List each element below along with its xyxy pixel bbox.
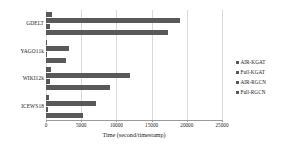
bar [46, 79, 50, 84]
bar-row [46, 52, 222, 57]
bar-group [46, 65, 222, 93]
x-axis-title: Time (second/timestamp) [46, 131, 222, 138]
bar-group [46, 10, 222, 38]
y-axis-label: YAGO11k [0, 48, 44, 54]
bar-row [46, 58, 222, 63]
x-tick-label: 25000 [216, 122, 229, 128]
bar-row [46, 24, 222, 29]
gridline [222, 10, 223, 120]
legend-item[interactable]: Full-RGCN [236, 87, 289, 97]
legend-label: Full-KGAT [241, 69, 265, 75]
x-tick-label: 5000 [76, 122, 86, 128]
legend-item[interactable]: AIR-KGAT [236, 57, 289, 67]
legend-swatch-icon [236, 61, 239, 64]
bar [46, 85, 110, 90]
legend-item[interactable]: Full-KGAT [236, 67, 289, 77]
bar [46, 73, 130, 78]
bar-row [46, 107, 222, 112]
legend-swatch-icon [236, 91, 239, 94]
bar [46, 46, 69, 51]
bar [46, 107, 48, 112]
bar-row [46, 85, 222, 90]
x-tick-label: 0 [45, 122, 48, 128]
bar [46, 95, 49, 100]
plot-area [46, 10, 222, 120]
bar-chart: GDELTYAGO11kWIKI12kICEWS18 0500010000150… [0, 0, 289, 150]
bar-row [46, 40, 222, 45]
y-axis-label: GDELT [0, 20, 44, 26]
bar-row [46, 73, 222, 78]
legend-swatch-icon [236, 71, 239, 74]
y-axis-category-labels: GDELTYAGO11kWIKI12kICEWS18 [0, 10, 44, 120]
x-tick-label: 20000 [180, 122, 193, 128]
x-tick-label: 10000 [110, 122, 123, 128]
bar-row [46, 79, 222, 84]
bar [46, 113, 83, 118]
bar-row [46, 18, 222, 23]
bar-row [46, 95, 222, 100]
bar [46, 67, 51, 72]
legend-swatch-icon [236, 81, 239, 84]
bar [46, 18, 180, 23]
y-axis-label: WIKI12k [0, 75, 44, 81]
y-axis-label: ICEWS18 [0, 103, 44, 109]
bar [46, 30, 168, 35]
chart-legend: AIR-KGATFull-KGATAIR-RGCNFull-RGCN [236, 57, 289, 97]
bar [46, 52, 47, 57]
bar-row [46, 113, 222, 118]
bar [46, 101, 96, 106]
x-axis-line [46, 120, 223, 121]
bar-row [46, 46, 222, 51]
legend-label: Full-RGCN [241, 89, 266, 95]
legend-label: AIR-KGAT [241, 59, 266, 65]
bar-row [46, 30, 222, 35]
legend-label: AIR-RGCN [241, 79, 266, 85]
bar [46, 40, 47, 45]
bar-row [46, 67, 222, 72]
bar-row [46, 12, 222, 17]
bar-group [46, 38, 222, 66]
bar [46, 12, 52, 17]
x-tick-label: 15000 [145, 122, 158, 128]
bar-row [46, 101, 222, 106]
bar-group [46, 93, 222, 121]
bar [46, 58, 66, 63]
bar [46, 24, 50, 29]
legend-item[interactable]: AIR-RGCN [236, 77, 289, 87]
